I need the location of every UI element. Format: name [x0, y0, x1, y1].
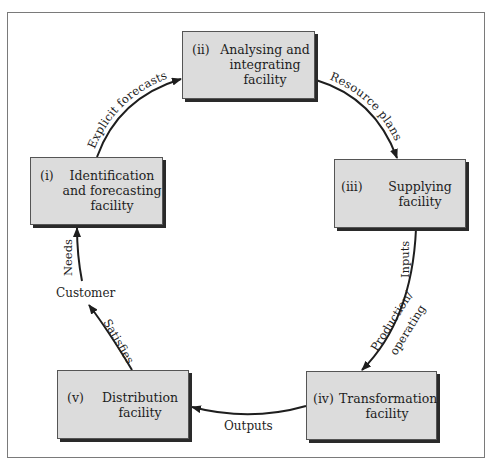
- node-number: (ii): [192, 42, 210, 57]
- node-label: Supplying facility: [377, 179, 463, 209]
- edge-label-outputs: Outputs: [224, 419, 273, 433]
- node-number: (i): [40, 168, 54, 183]
- node-number: (v): [67, 390, 84, 405]
- edge-label-satisfies: Satisfies: [100, 317, 137, 367]
- node-number: (iv): [313, 391, 334, 406]
- customer-label: Customer: [56, 286, 115, 300]
- node-label: Transformation facility: [339, 391, 435, 421]
- node-label: Identification and forecasting facility: [62, 168, 162, 213]
- node-supplying: (iii) Supplying facility: [334, 159, 466, 228]
- node-number: (iii): [341, 179, 363, 194]
- node-label: Distribution facility: [94, 390, 186, 420]
- node-distribution: (v) Distribution facility: [57, 370, 189, 439]
- arrow-needs: [77, 228, 82, 281]
- node-label: Analysing and integrating facility: [219, 42, 311, 87]
- arrow-outputs: [192, 406, 306, 414]
- node-analysing-integrating: (ii) Analysing and integrating facility: [182, 31, 315, 99]
- node-identification-forecasting: (i) Identification and forecasting facil…: [30, 157, 163, 225]
- edge-label-inputs: Inputs: [398, 241, 412, 278]
- edge-label-needs: Needs: [61, 239, 75, 276]
- edge-label-resource-plans: Resource plans: [328, 69, 405, 143]
- node-transformation: (iv) Transformation facility: [306, 371, 437, 440]
